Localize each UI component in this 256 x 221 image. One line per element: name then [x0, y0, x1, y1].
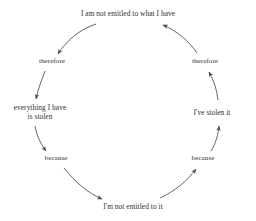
node-everything-is-stolen-line-1: everything I have — [14, 103, 67, 112]
node-ive-stolen-it-line-1: I've stolen it — [194, 108, 231, 117]
node-therefore-left: therefore — [39, 57, 65, 66]
node-because-left: because — [45, 154, 68, 163]
edge-therefore-left-to-everything — [36, 71, 45, 99]
edge-top-to-therefore-left — [58, 24, 96, 54]
node-therefore-right: therefore — [192, 57, 218, 66]
node-everything-is-stolen-line-2: is stolen — [14, 112, 67, 121]
node-because-right: because — [192, 154, 215, 163]
edge-stolen-to-therefore-right — [209, 72, 218, 100]
circular-argument-diagram: I am not entitled to what I have therefo… — [0, 0, 256, 221]
edge-therefore-right-to-top — [163, 25, 197, 53]
edge-everything-to-because-left — [35, 126, 46, 151]
node-because-left-line-1: because — [45, 154, 68, 163]
edge-bottom-to-because-right — [160, 169, 196, 198]
node-therefore-left-line-1: therefore — [39, 57, 65, 66]
edge-because-right-to-stolen — [211, 126, 219, 151]
node-top: I am not entitled to what I have — [81, 9, 175, 18]
node-ive-stolen-it: I've stolen it — [194, 108, 231, 117]
node-because-right-line-1: because — [192, 154, 215, 163]
node-bottom-line-1: I'm not entitled to it — [103, 202, 163, 211]
edge-because-left-to-bottom — [64, 168, 102, 199]
node-everything-is-stolen: everything I have is stolen — [14, 103, 67, 121]
node-top-line-1: I am not entitled to what I have — [81, 9, 175, 18]
node-therefore-right-line-1: therefore — [192, 57, 218, 66]
node-bottom: I'm not entitled to it — [103, 202, 163, 211]
